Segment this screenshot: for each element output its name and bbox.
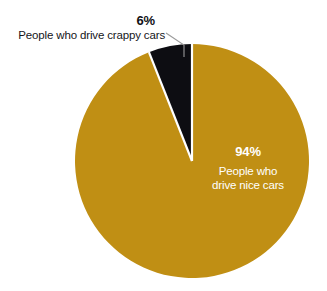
inside-description-line-2: drive nice cars [196,178,300,192]
inside-label-nice-cars: 94% People who drive nice cars [196,144,300,192]
inside-description-line-1: People who [196,164,300,178]
inside-percent-nice-cars: 94% [196,144,300,160]
pie-chart: 6% People who drive crappy cars 94% Peop… [0,0,327,291]
inside-description-nice-cars: People who drive nice cars [196,164,300,192]
callout-description-crappy-cars: People who drive crappy cars [0,29,165,41]
callout-percent-crappy-cars: 6% [0,13,155,28]
